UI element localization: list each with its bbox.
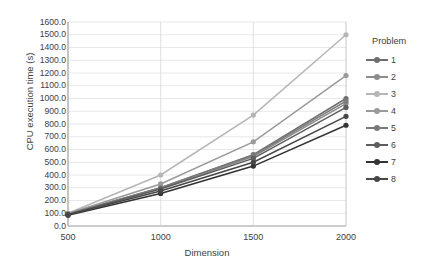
legend-item[interactable]: 7 bbox=[366, 153, 428, 170]
legend-marker-icon bbox=[366, 89, 388, 99]
legend-marker-icon bbox=[366, 55, 388, 65]
x-axis-title: Dimension bbox=[68, 247, 346, 258]
legend-item[interactable]: 1 bbox=[366, 51, 428, 68]
legend-marker-icon bbox=[366, 72, 388, 82]
legend-item[interactable]: 2 bbox=[366, 68, 428, 85]
legend-item-label: 4 bbox=[391, 106, 396, 116]
legend: Problem 12345678 bbox=[366, 36, 428, 187]
data-point-marker bbox=[251, 139, 256, 144]
data-point-marker bbox=[343, 32, 348, 37]
data-point-marker bbox=[158, 188, 163, 193]
y-axis-tick-label: 300.0 bbox=[22, 183, 66, 192]
legend-item-label: 8 bbox=[391, 174, 396, 184]
data-point-marker bbox=[158, 172, 163, 177]
y-axis-tick-label: 1000.0 bbox=[22, 94, 66, 103]
data-point-marker bbox=[65, 212, 70, 217]
data-point-marker bbox=[343, 98, 348, 103]
y-axis-tick-label: 1600.0 bbox=[22, 18, 66, 27]
legend-item-label: 2 bbox=[391, 72, 396, 82]
chart-container: CPU execution time (s) 0.0100.0200.0300.… bbox=[0, 0, 428, 271]
data-point-marker bbox=[343, 114, 348, 119]
legend-items: 12345678 bbox=[366, 51, 428, 187]
y-axis-tick-label: 600.0 bbox=[22, 145, 66, 154]
y-axis-tick-label: 100.0 bbox=[22, 209, 66, 218]
x-axis-tick-label: 500 bbox=[48, 232, 88, 242]
x-axis-tick-label: 1500 bbox=[233, 232, 273, 242]
y-axis-tick-label: 1200.0 bbox=[22, 69, 66, 78]
y-axis-tick-label: 700.0 bbox=[22, 132, 66, 141]
legend-item-label: 3 bbox=[391, 89, 396, 99]
data-point-marker bbox=[343, 73, 348, 78]
legend-title: Problem bbox=[372, 36, 428, 46]
legend-marker-icon bbox=[366, 106, 388, 116]
data-point-marker bbox=[343, 105, 348, 110]
y-axis-tick-label: 1500.0 bbox=[22, 30, 66, 39]
y-axis-tick-label: 800.0 bbox=[22, 120, 66, 129]
legend-item-label: 1 bbox=[391, 55, 396, 65]
y-axis-tick-label: 900.0 bbox=[22, 107, 66, 116]
y-axis-tick-label: 1100.0 bbox=[22, 81, 66, 90]
legend-item[interactable]: 8 bbox=[366, 170, 428, 187]
legend-item[interactable]: 6 bbox=[366, 136, 428, 153]
legend-item[interactable]: 5 bbox=[366, 119, 428, 136]
y-axis-tick-label: 500.0 bbox=[22, 158, 66, 167]
y-axis-tick-label: 1300.0 bbox=[22, 56, 66, 65]
series-line bbox=[68, 101, 346, 214]
legend-item-label: 6 bbox=[391, 140, 396, 150]
y-axis-tick-label: 400.0 bbox=[22, 171, 66, 180]
legend-item[interactable]: 3 bbox=[366, 85, 428, 102]
y-axis-tick-label: 0.0 bbox=[22, 222, 66, 231]
legend-item[interactable]: 4 bbox=[366, 102, 428, 119]
legend-marker-icon bbox=[366, 123, 388, 133]
data-point-marker bbox=[343, 123, 348, 128]
x-axis-tick-label: 1000 bbox=[141, 232, 181, 242]
data-point-marker bbox=[251, 112, 256, 117]
legend-item-label: 7 bbox=[391, 157, 396, 167]
legend-marker-icon bbox=[366, 174, 388, 184]
y-axis-tick-label: 1400.0 bbox=[22, 43, 66, 52]
legend-marker-icon bbox=[366, 157, 388, 167]
legend-item-label: 5 bbox=[391, 123, 396, 133]
y-axis-tick-labels: 0.0100.0200.0300.0400.0500.0600.0700.080… bbox=[18, 0, 66, 271]
legend-marker-icon bbox=[366, 140, 388, 150]
series-line bbox=[68, 104, 346, 215]
data-point-marker bbox=[251, 160, 256, 165]
x-axis-tick-label: 2000 bbox=[326, 232, 366, 242]
y-axis-tick-label: 200.0 bbox=[22, 196, 66, 205]
